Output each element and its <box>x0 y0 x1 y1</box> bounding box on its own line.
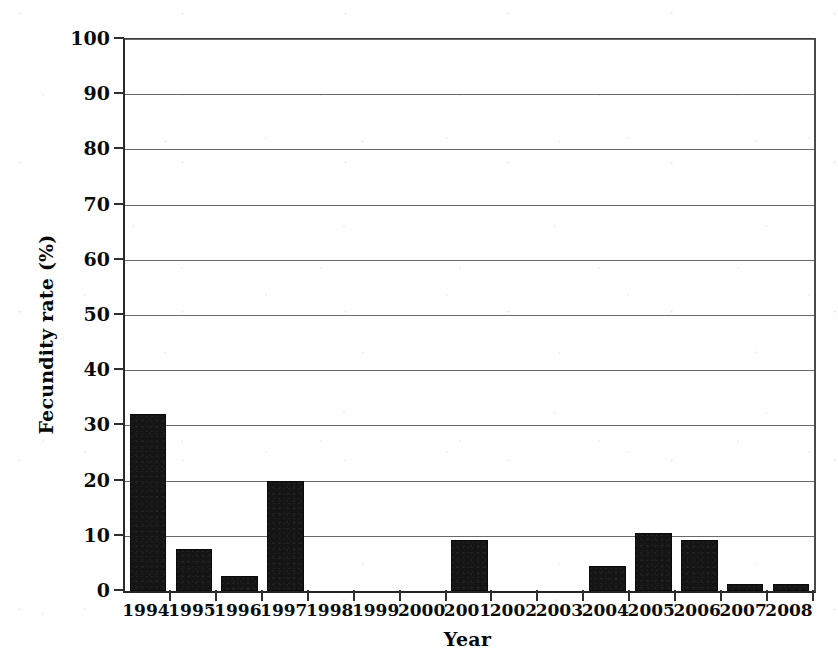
bar-2004 <box>589 566 626 591</box>
bar-2008 <box>773 584 810 591</box>
bar-2001 <box>451 540 488 591</box>
gridline <box>125 260 814 261</box>
gridline <box>125 315 814 316</box>
y-axis-tick-label: 70 <box>58 193 110 215</box>
bar-2005 <box>635 533 672 591</box>
bar-1996 <box>221 576 258 591</box>
x-axis-tick-label: 2003 <box>536 600 583 620</box>
y-axis-tick-label: 30 <box>58 413 110 435</box>
y-axis-tick-label: 80 <box>58 137 110 159</box>
y-axis-tick-label: 100 <box>58 27 110 49</box>
x-axis-title: Year <box>123 628 812 650</box>
gridline <box>125 39 814 40</box>
x-axis-tick-label: 1998 <box>306 600 353 620</box>
x-axis-tick-label: 2004 <box>582 600 629 620</box>
bar-1995 <box>176 549 213 591</box>
y-axis-tick-label: 10 <box>58 524 110 546</box>
x-axis-tick-label: 2002 <box>490 600 537 620</box>
x-axis-tick-label: 2006 <box>673 600 720 620</box>
y-axis-tick-label: 20 <box>58 469 110 491</box>
y-axis-tick-label: 60 <box>58 248 110 270</box>
x-axis-tick-label: 1999 <box>352 600 399 620</box>
x-axis-tick-label: 2005 <box>628 600 675 620</box>
y-axis-tick-label: 50 <box>58 303 110 325</box>
x-axis-tick-label: 2007 <box>719 600 766 620</box>
bar-2006 <box>681 540 718 591</box>
bar-chart-figure: Fecundity rate (%) 010203040506070809010… <box>0 0 838 669</box>
bar-1994 <box>130 414 167 591</box>
gridline <box>125 205 814 206</box>
gridline <box>125 149 814 150</box>
x-axis-tick-label: 1995 <box>168 600 215 620</box>
x-axis-tick-label: 1996 <box>214 600 261 620</box>
plot-area <box>123 38 816 593</box>
x-axis-tick-label: 2008 <box>765 600 812 620</box>
bar-2007 <box>727 584 764 591</box>
gridline <box>125 425 814 426</box>
bar-1997 <box>267 481 304 591</box>
y-axis-tick-label: 40 <box>58 358 110 380</box>
gridline <box>125 536 814 537</box>
x-axis-tick-label: 1997 <box>260 600 307 620</box>
y-axis-tick-label: 0 <box>58 579 110 601</box>
x-axis-tick-label: 2000 <box>398 600 445 620</box>
y-axis-tick-label: 90 <box>58 82 110 104</box>
x-axis-tick-label: 1994 <box>122 600 169 620</box>
gridline <box>125 481 814 482</box>
x-axis-tick-label: 2001 <box>444 600 491 620</box>
gridline <box>125 94 814 95</box>
gridline <box>125 370 814 371</box>
